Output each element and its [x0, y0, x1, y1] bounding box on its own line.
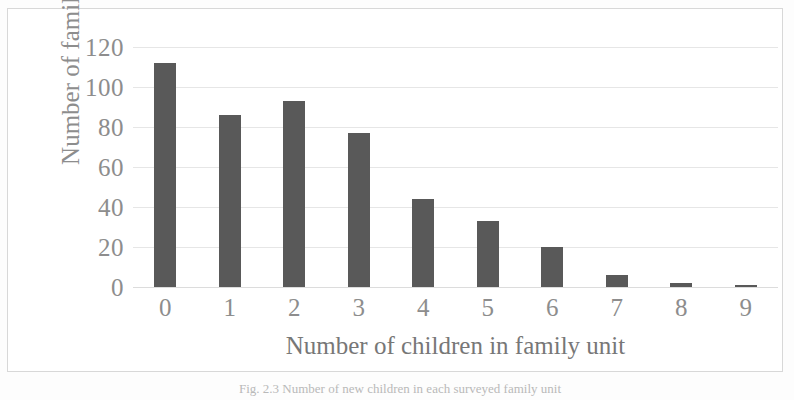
axis-baseline: [133, 287, 778, 288]
bar-slot: [585, 47, 650, 287]
bar[interactable]: [477, 221, 499, 287]
bar-slot: [262, 47, 327, 287]
x-tick-label: 1: [198, 295, 263, 320]
bar[interactable]: [348, 133, 370, 287]
x-tick-label: 3: [327, 295, 392, 320]
y-axis-tick-labels: 020406080100120: [76, 47, 124, 287]
y-tick-label: 60: [98, 155, 124, 180]
bar[interactable]: [283, 101, 305, 287]
bar[interactable]: [412, 199, 434, 287]
plot-area: [133, 47, 778, 287]
y-tick-label: 0: [111, 275, 124, 300]
x-tick-label: 5: [456, 295, 521, 320]
y-tick-label: 120: [85, 35, 124, 60]
x-tick-label: 2: [262, 295, 327, 320]
y-tick-label: 80: [98, 115, 124, 140]
x-tick-label: 7: [585, 295, 650, 320]
x-axis-title: Number of children in family unit: [133, 332, 778, 360]
x-tick-label: 6: [520, 295, 585, 320]
bar-slot: [133, 47, 198, 287]
figure-container: Number of families 020406080100120 01234…: [0, 0, 794, 400]
x-tick-label: 0: [133, 295, 198, 320]
y-tick-label: 20: [98, 235, 124, 260]
bar-slot: [198, 47, 263, 287]
x-tick-label: 8: [649, 295, 714, 320]
bar[interactable]: [670, 283, 692, 287]
x-tick-label: 4: [391, 295, 456, 320]
bar-slot: [520, 47, 585, 287]
y-tick-label: 40: [98, 195, 124, 220]
bar-slot: [456, 47, 521, 287]
bar[interactable]: [735, 285, 757, 287]
bar-slot: [391, 47, 456, 287]
bar-slot: [714, 47, 779, 287]
x-tick-label: 9: [714, 295, 779, 320]
bar[interactable]: [154, 63, 176, 287]
bar[interactable]: [219, 115, 241, 287]
y-tick-label: 100: [85, 75, 124, 100]
bar-slot: [649, 47, 714, 287]
bar[interactable]: [606, 275, 628, 287]
x-axis-tick-labels: 0123456789: [133, 295, 778, 329]
chart-frame: Number of families 020406080100120 01234…: [7, 8, 783, 372]
figure-caption: Fig. 2.3 Number of new children in each …: [60, 381, 740, 397]
bar[interactable]: [541, 247, 563, 287]
bar-series: [133, 47, 778, 287]
bar-slot: [327, 47, 392, 287]
